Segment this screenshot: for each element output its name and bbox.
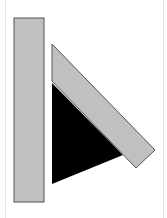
diagram-canvas (0, 0, 167, 218)
vertical-bar (14, 18, 44, 202)
